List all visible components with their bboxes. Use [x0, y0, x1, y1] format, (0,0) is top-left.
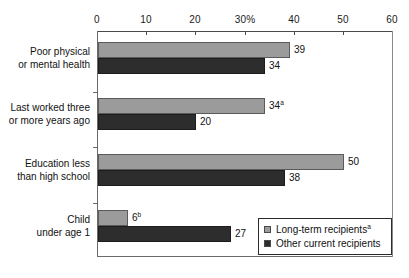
x-tick-label-60: 60 — [386, 14, 398, 25]
bar-other-current-last-worked — [98, 114, 196, 130]
x-tick-label-20: 20 — [189, 14, 201, 25]
x-tick-label-40: 40 — [288, 14, 300, 25]
legend-swatch-icon-long-term — [264, 226, 271, 233]
x-axis-tick-40 — [294, 31, 295, 35]
legend-item-long-term: Long-term recipientsa — [264, 222, 386, 236]
bar-value-long-term-poor-health: 39 — [294, 42, 305, 58]
superscript-marker-a: a — [280, 99, 284, 106]
group-label-line2: under age 1 — [0, 227, 90, 240]
group-label-education: Education less than high school — [0, 158, 90, 183]
superscript-marker-a: a — [367, 222, 371, 229]
grouped-bar-chart: 0 10 20 30% 40 50 60 Poor physical or me… — [0, 0, 409, 278]
bar-other-current-child-under-one — [98, 226, 231, 242]
group-divider-tick-2 — [93, 147, 97, 148]
group-label-child-under-one: Child under age 1 — [0, 214, 90, 239]
bar-long-term-poor-health — [98, 42, 290, 58]
bar-value-long-term-child-under-one: 6b — [132, 210, 141, 226]
x-axis-tick-10 — [146, 31, 147, 35]
bar-value-long-term-education: 50 — [348, 154, 359, 170]
bar-long-term-last-worked — [98, 98, 265, 114]
group-label-poor-health: Poor physical or mental health — [0, 46, 90, 71]
x-axis-tick-30 — [245, 31, 246, 35]
plot-bottom-border — [97, 256, 393, 257]
x-tick-label-0: 0 — [94, 14, 100, 25]
group-label-line1: Last worked three — [0, 102, 90, 115]
superscript-marker-b: b — [138, 211, 142, 218]
bar-value-other-current-poor-health: 34 — [269, 58, 280, 74]
group-label-line1: Education less — [0, 158, 90, 171]
x-axis-tick-20 — [195, 31, 196, 35]
bar-value-other-current-last-worked: 20 — [200, 114, 211, 130]
plot-right-border — [392, 31, 393, 257]
group-divider-tick-3 — [93, 203, 97, 204]
legend-swatch-icon-other-current — [264, 240, 271, 247]
legend-label-other-current: Other current recipients — [276, 238, 381, 249]
x-axis-tick-labels: 0 10 20 30% 40 50 60 — [97, 14, 392, 28]
x-axis-tick-50 — [343, 31, 344, 35]
group-label-line1: Poor physical — [0, 46, 90, 59]
bar-long-term-education — [98, 154, 344, 170]
group-label-last-worked: Last worked three or more years ago — [0, 102, 90, 127]
group-label-line2: than high school — [0, 171, 90, 184]
bar-other-current-poor-health — [98, 58, 265, 74]
legend-item-other-current: Other current recipients — [264, 236, 386, 250]
bar-value-other-current-education: 38 — [289, 170, 300, 186]
bar-other-current-education — [98, 170, 285, 186]
x-tick-label-10: 10 — [140, 14, 152, 25]
bar-value-other-current-child-under-one: 27 — [235, 226, 246, 242]
group-divider-tick-1 — [93, 92, 97, 93]
chart-legend: Long-term recipientsa Other current reci… — [258, 218, 392, 255]
bar-value-long-term-last-worked: 34a — [269, 98, 284, 114]
x-tick-label-50: 50 — [337, 14, 349, 25]
bar-long-term-child-under-one — [98, 210, 128, 226]
legend-label-long-term: Long-term recipientsa — [276, 224, 371, 235]
group-label-line1: Child — [0, 214, 90, 227]
x-tick-label-30: 30% — [235, 14, 256, 25]
group-label-line2: or mental health — [0, 59, 90, 72]
group-label-line2: or more years ago — [0, 115, 90, 128]
